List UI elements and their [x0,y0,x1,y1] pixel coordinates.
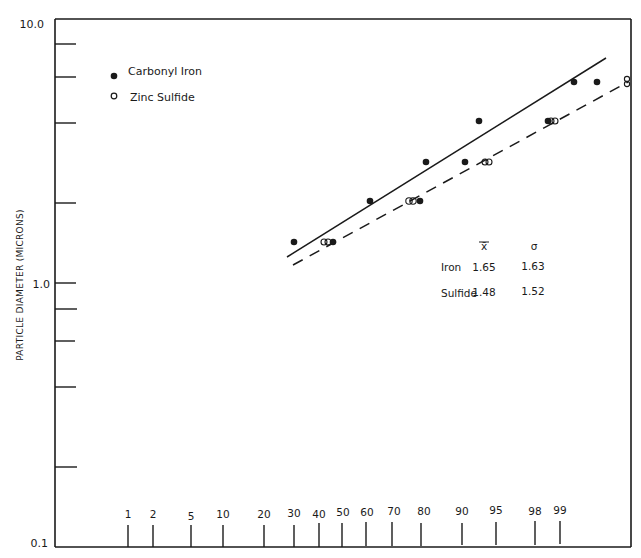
iron-sigma: 1.63 [521,260,544,272]
svg-text:90: 90 [455,505,468,517]
svg-text:70: 70 [387,505,400,517]
sigma-header: σ [531,240,538,252]
svg-text:2: 2 [150,508,157,520]
svg-text:98: 98 [528,505,541,517]
filled-circle-marker-icon [111,73,118,80]
svg-text:30: 30 [287,507,300,519]
svg-text:95: 95 [489,504,502,516]
probability-plot: 10.0 1.0 0.1 PARTICLE DIAMETER (MICRONS)… [0,0,641,558]
iron-fit-line [287,58,606,257]
x-tick-labels: 1 2 5 10 20 30 40 50 60 70 80 90 95 98 9… [125,504,567,522]
svg-text:60: 60 [360,506,373,518]
zinc-fit-line [293,82,628,265]
y-tick-label: 1.0 [33,278,51,291]
svg-text:10: 10 [216,508,229,520]
svg-text:1: 1 [125,508,132,520]
svg-text:80: 80 [417,505,430,517]
sulfide-mean: 1.48 [472,286,495,298]
svg-text:99: 99 [553,504,566,516]
y-axis-ticks [55,44,77,467]
stats-table: x̄ σ Iron 1.65 1.63 Sulfide 1.48 1.52 [441,240,545,299]
svg-text:20: 20 [257,508,270,520]
iron-row-label: Iron [441,261,461,273]
svg-text:50: 50 [336,506,349,518]
legend: Carbonyl Iron Zinc Sulfide [111,65,202,104]
legend-label-iron: Carbonyl Iron [128,65,202,78]
open-circle-marker-icon [111,93,117,99]
zinc-data-points [321,76,630,245]
sulfide-sigma: 1.52 [521,285,544,297]
svg-text:40: 40 [312,508,325,520]
x-axis-ticks [128,521,560,547]
iron-data-points [291,79,601,246]
svg-text:5: 5 [188,510,195,522]
y-axis-title: PARTICLE DIAMETER (MICRONS) [15,209,25,361]
y-tick-label: 0.1 [31,537,49,550]
legend-label-zinc: Zinc Sulfide [130,91,195,104]
y-tick-label: 10.0 [20,18,45,31]
iron-mean: 1.65 [472,261,495,273]
